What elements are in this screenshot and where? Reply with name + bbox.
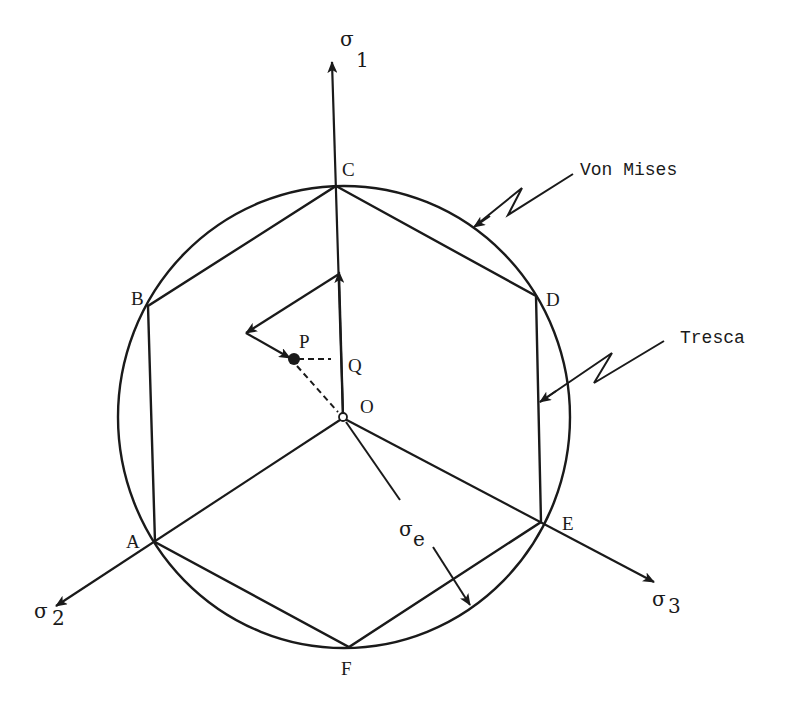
- sigma3-subscript: 3: [668, 594, 681, 618]
- dashed-p-to-o: [297, 366, 338, 412]
- sigma3-label: σ: [652, 587, 666, 611]
- point-o-label: O: [360, 396, 374, 417]
- sigma1-label: σ: [340, 27, 354, 51]
- point-q-label: Q: [348, 355, 362, 376]
- point-p-label: P: [299, 331, 310, 352]
- yield-surface-diagram: σ 1 σ 2 σ 3 C B D A E F O P Q σ e Von Mi…: [0, 0, 799, 708]
- sigma-e-label: σ: [399, 517, 413, 541]
- origin-marker: [339, 413, 347, 421]
- point-f-label: F: [341, 658, 352, 679]
- sigma3-axis: [343, 418, 654, 582]
- tresca-label: Tresca: [680, 328, 745, 348]
- vector-left: [246, 274, 339, 333]
- sigma2-subscript: 2: [52, 606, 65, 630]
- sigma-e-subscript: e: [413, 527, 425, 551]
- tresca-callout: [540, 341, 664, 402]
- point-d-label: D: [546, 289, 560, 310]
- point-c-label: C: [342, 159, 355, 180]
- point-e-label: E: [562, 513, 574, 534]
- point-p-marker: [288, 353, 300, 365]
- point-a-label: A: [126, 531, 140, 552]
- sigma2-axis: [56, 418, 343, 606]
- von-mises-callout: [475, 174, 573, 226]
- von-mises-label: Von Mises: [580, 160, 677, 180]
- von-mises-callout-arrow: [474, 216, 490, 227]
- sigma-e-arrow: [433, 547, 470, 605]
- point-b-label: B: [131, 288, 144, 309]
- tresca-callout-arrow: [540, 391, 556, 402]
- sigma2-label: σ: [34, 599, 48, 623]
- sigma1-subscript: 1: [356, 48, 369, 72]
- vector-to-p: [246, 333, 290, 358]
